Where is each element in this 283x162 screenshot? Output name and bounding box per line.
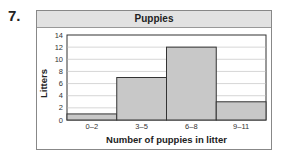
x-tick-label: 0–2 [86,122,99,131]
histogram-chart: 024681012140–23–56–89–11Number of puppie… [0,0,283,162]
y-axis-label: Litters [38,69,49,98]
x-tick-label: 6–8 [185,122,198,131]
bar [67,114,117,120]
bar [216,102,266,120]
y-tick-label: 4 [59,91,63,100]
y-tick-label: 10 [55,55,63,64]
y-tick-label: 0 [59,116,63,125]
bar [117,78,167,121]
y-tick-label: 12 [55,43,63,52]
x-tick-label: 3–5 [135,122,148,131]
y-tick-label: 14 [55,31,63,40]
bar [167,47,217,120]
y-tick-label: 6 [59,79,63,88]
x-axis-label: Number of puppies in litter [106,134,227,145]
y-tick-label: 8 [59,67,63,76]
y-tick-label: 2 [59,103,63,112]
x-tick-label: 9–11 [233,122,249,131]
